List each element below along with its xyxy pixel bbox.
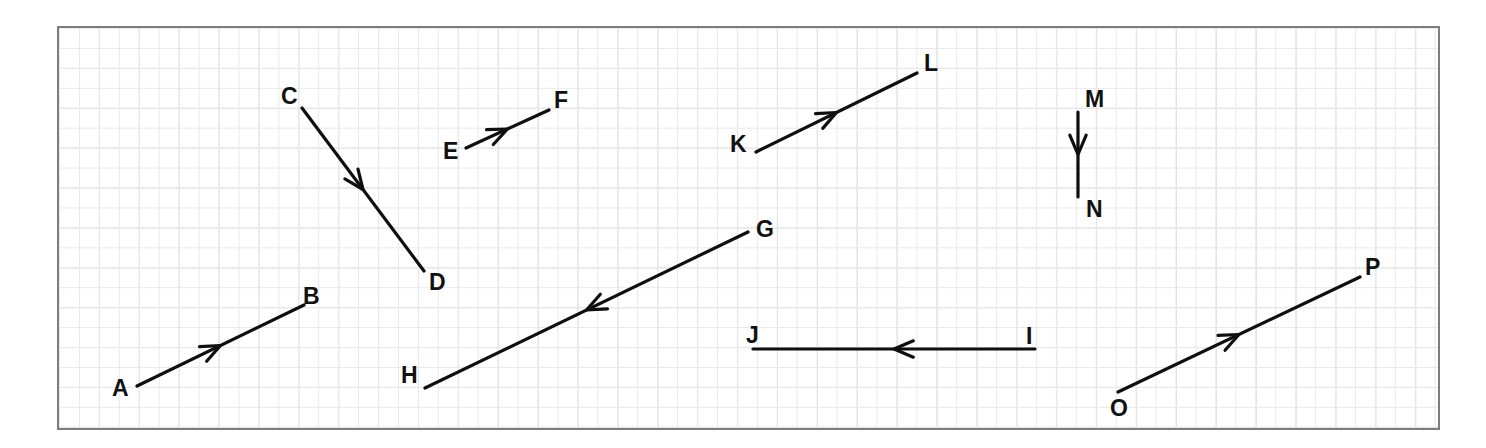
vector-label-h: H (401, 364, 418, 387)
vector-label-o: O (1110, 397, 1128, 420)
vector-label-n: N (1086, 198, 1103, 221)
vector-label-b: B (303, 285, 320, 308)
vector-label-l: L (924, 52, 938, 75)
vector-label-a: A (112, 377, 129, 400)
vector-label-e: E (443, 140, 458, 163)
vector-label-f: F (554, 89, 568, 112)
grid-paper-canvas (57, 26, 1440, 430)
diagram-stage: ABCDEFGHIJKLMNOP (0, 0, 1486, 448)
vector-label-d: D (429, 271, 446, 294)
vector-label-c: C (281, 85, 298, 108)
vector-label-g: G (756, 218, 774, 241)
vector-label-p: P (1365, 256, 1380, 279)
vector-label-j: J (746, 324, 759, 347)
vector-label-k: K (730, 133, 747, 156)
vector-label-m: M (1085, 88, 1104, 111)
vector-label-i: I (1026, 325, 1032, 348)
